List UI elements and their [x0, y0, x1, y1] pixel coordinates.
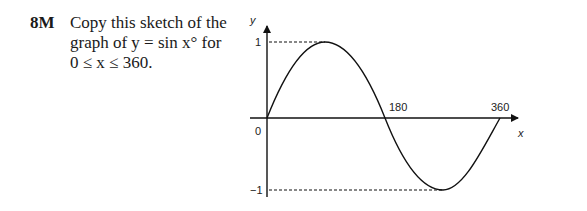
sine-curve [267, 42, 500, 190]
y-axis-label: y [249, 14, 257, 26]
sine-graph: y 1 0 −1 180 360 x [0, 0, 587, 211]
x-tick-180: 180 [389, 101, 407, 113]
x-axis-label: x [517, 127, 524, 139]
y-tick-1: 1 [255, 36, 261, 48]
textbook-page: 8M Copy this sketch of the graph of y = … [0, 0, 587, 211]
x-tick-360: 360 [491, 101, 509, 113]
origin-label: 0 [255, 125, 261, 137]
y-tick-minus-1: −1 [250, 184, 263, 196]
